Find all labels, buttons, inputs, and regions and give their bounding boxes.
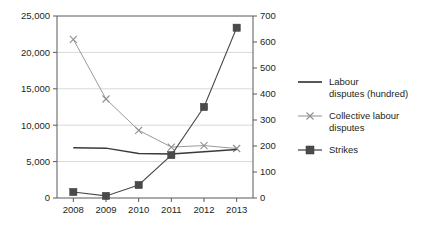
chart-figure: 05,00010,00015,00020,00025,000 010020030… <box>0 0 421 240</box>
data-point-square-marker <box>200 103 207 110</box>
chart-legend: Labour disputes (hundred) Collective lab… <box>298 76 408 155</box>
legend-label-labour-disputes-line1: Labour <box>329 76 359 87</box>
y-axis-right-tick-label: 300 <box>260 114 276 125</box>
x-axis-tick-label: 2011 <box>161 204 181 215</box>
y-axis-right-tick-label: 0 <box>260 192 265 203</box>
y-axis-left-tick-label: 0 <box>45 192 50 203</box>
line-chart: 05,00010,00015,00020,00025,000 010020030… <box>0 0 421 240</box>
x-axis-labels: 200820092010201120122013 <box>63 204 247 215</box>
data-point-square-marker <box>168 152 175 159</box>
legend-item-labour-disputes: Labour disputes (hundred) <box>298 76 408 99</box>
data-point-square-marker <box>102 192 109 199</box>
data-point-square-marker <box>135 181 142 188</box>
data-point-square-marker <box>233 24 240 31</box>
legend-item-strikes: Strikes <box>298 144 358 155</box>
legend-label-labour-disputes-line2: disputes (hundred) <box>329 88 408 99</box>
y-axis-right-tickmarks <box>253 16 257 198</box>
y-axis-right-tick-label: 100 <box>260 166 276 177</box>
y-axis-left-tick-label: 20,000 <box>21 47 50 58</box>
x-axis-tick-label: 2008 <box>63 204 84 215</box>
y-axis-right-tick-label: 200 <box>260 140 276 151</box>
y-axis-left-tick-label: 15,000 <box>21 83 50 94</box>
y-axis-right-tick-label: 700 <box>260 10 276 21</box>
legend-label-strikes: Strikes <box>329 144 358 155</box>
y-axis-left-tickmarks <box>53 16 57 198</box>
x-axis-tickmarks <box>73 198 236 202</box>
x-axis-tick-label: 2009 <box>95 204 116 215</box>
data-point-square-marker <box>70 188 77 195</box>
y-axis-right-tick-label: 500 <box>260 62 276 73</box>
y-axis-left-tick-label: 5,000 <box>26 156 50 167</box>
legend-label-collective-line2: disputes <box>329 122 365 133</box>
y-axis-right-tick-label: 400 <box>260 88 276 99</box>
legend-item-collective-labour-disputes: Collective labour disputes <box>298 110 399 133</box>
y-axis-right-labels: 0100200300400500600700 <box>260 10 276 203</box>
legend-label-collective-line1: Collective labour <box>329 110 399 121</box>
y-axis-right-tick-label: 600 <box>260 36 276 47</box>
y-axis-left-tick-label: 25,000 <box>21 10 50 21</box>
x-axis-tick-label: 2012 <box>193 204 214 215</box>
x-axis-tick-label: 2013 <box>226 204 247 215</box>
y-axis-left-labels: 05,00010,00015,00020,00025,000 <box>21 10 50 203</box>
x-axis-tick-label: 2010 <box>128 204 149 215</box>
y-axis-left-tick-label: 10,000 <box>21 120 50 131</box>
legend-swatch-square-marker-icon <box>306 146 314 154</box>
